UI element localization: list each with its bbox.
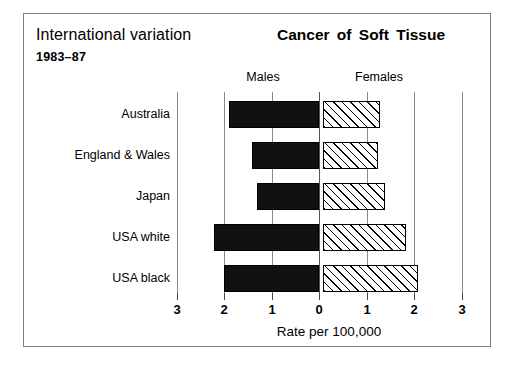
bar-female	[323, 101, 380, 128]
bar-female	[323, 265, 418, 292]
bar-male	[229, 101, 319, 128]
bar-male	[214, 224, 319, 251]
chart-subtitle-variation: International variation	[36, 26, 191, 44]
chart-figure: International variation 1983–87 Cancer o…	[0, 0, 510, 372]
legend-label-males: Males	[237, 70, 289, 84]
bar-female	[323, 183, 385, 210]
category-label: USA white	[30, 230, 170, 244]
bar-female	[323, 224, 406, 251]
legend-label-females: Females	[348, 70, 410, 84]
x-axis-label: Rate per 100,000	[259, 324, 399, 339]
category-label: England & Wales	[30, 148, 170, 162]
chart-title: Cancer of Soft Tissue	[277, 26, 445, 44]
bar-male	[252, 142, 319, 169]
bar-male	[257, 183, 319, 210]
chart-subtitle-years: 1983–87	[36, 50, 86, 64]
bar-male	[224, 265, 319, 292]
category-label: Australia	[30, 107, 170, 121]
category-label: Japan	[30, 189, 170, 203]
chart-frame	[23, 13, 491, 347]
category-label: USA black	[30, 271, 170, 285]
bar-female	[323, 142, 378, 169]
